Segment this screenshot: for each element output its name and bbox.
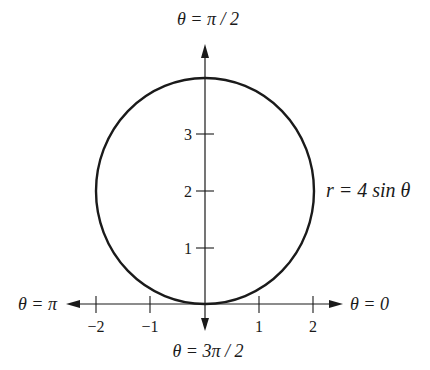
xtick-label: −2 — [87, 318, 104, 335]
ytick-label: 1 — [184, 240, 192, 257]
arrow-right-icon — [329, 300, 343, 308]
ytick-label: 3 — [184, 126, 192, 143]
label-theta-pi-over-2: θ = π / 2 — [177, 9, 239, 29]
xtick-label: 1 — [255, 318, 263, 335]
ytick-label: 2 — [184, 183, 192, 200]
label-theta-0: θ = 0 — [350, 294, 389, 314]
label-theta-pi: θ = π — [18, 294, 58, 314]
polar-graph: −2 −1 1 2 1 2 3 θ = π / 2 θ = 3π / 2 θ =… — [0, 0, 430, 370]
arrow-up-icon — [201, 44, 209, 58]
label-theta-3pi-over-2: θ = 3π / 2 — [172, 341, 243, 361]
arrow-down-icon — [201, 318, 209, 331]
arrow-left-icon — [66, 300, 80, 308]
xtick-label: 2 — [309, 318, 317, 335]
curve-label: r = 4 sin θ — [326, 179, 411, 201]
xtick-label: −1 — [141, 318, 158, 335]
